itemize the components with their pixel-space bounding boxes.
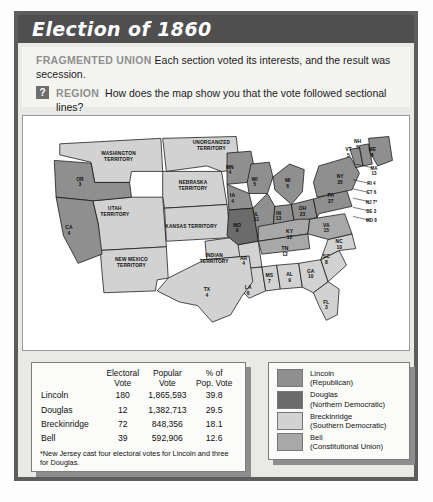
table-row: Breckinridge 72 848,356 18.1: [40, 417, 237, 431]
cell-popular: 1,865,593: [143, 388, 191, 402]
cell-percent: 39.8: [191, 388, 237, 402]
map-label-washington-territory: WASHINGTONTERRITORY: [101, 151, 136, 162]
map-callout-de: DE 3: [366, 209, 377, 214]
map-label-tn: TN12: [282, 246, 289, 257]
cell-candidate: Breckinridge: [40, 417, 102, 431]
map-legend: Lincoln(Republican) Douglas(Northern Dem…: [268, 362, 410, 460]
caption-main: FRAGMENTED UNION Each section voted its …: [36, 53, 400, 81]
page-title: Election of 1860: [18, 18, 212, 40]
legend-label: Lincoln(Republican): [310, 369, 353, 387]
th-name: [40, 369, 102, 388]
cell-percent: 18.1: [191, 417, 237, 431]
th-percent: % ofPop. Vote: [191, 369, 237, 388]
cell-popular: 592,906: [143, 431, 191, 445]
cell-candidate: Douglas: [40, 402, 102, 416]
results-table-box: ElectoralVote PopularVote % ofPop. Vote …: [31, 362, 246, 472]
title-bar: Election of 1860: [18, 15, 414, 43]
map-label-unorganized-territory: UNORGANIZEDTERRITORY: [193, 140, 231, 151]
map-label-in: IN13: [276, 211, 282, 222]
cell-candidate: Bell: [40, 431, 102, 445]
map-callout-md: MD 8: [366, 218, 377, 223]
map-label-kansas-territory: KANSAS TERRITORY: [165, 224, 217, 229]
map-label-il: IL11: [254, 212, 259, 223]
th-electoral: ElectoralVote: [102, 369, 143, 388]
legend-item-lincoln: Lincoln(Republican): [277, 369, 403, 387]
table-footnote: *New Jersey cast four electoral votes fo…: [40, 449, 237, 468]
map-region-utah-territory: [93, 197, 167, 250]
cell-electoral: 12: [102, 402, 143, 416]
map-label-new-mexico-territory: NEW MEXICOTERRITORY: [115, 257, 148, 268]
caption-question-row: ? REGION How does the map show you that …: [36, 86, 400, 114]
legend-swatch: [277, 391, 303, 409]
map-label-nebraska-territory: NEBRASKATERRITORY: [179, 180, 209, 191]
cell-electoral: 39: [102, 431, 143, 445]
election-map: WASHINGTONTERRITORYUNORGANIZEDTERRITORYN…: [22, 115, 410, 351]
legend-swatch: [277, 412, 303, 430]
election-1860-infographic: Election of 1860 FRAGMENTED UNION Each s…: [0, 0, 433, 502]
cell-popular: 848,356: [143, 417, 191, 431]
th-popular: PopularVote: [143, 369, 191, 388]
caption-panel: FRAGMENTED UNION Each section voted its …: [22, 47, 410, 107]
caption-question: How does the map show you that the vote …: [56, 87, 386, 113]
map-label-va: VA15: [323, 223, 330, 234]
cell-percent: 29.5: [191, 402, 237, 416]
table-row: Douglas 12 1,382,713 29.5: [40, 402, 237, 416]
map-callout-ct: CT 6: [366, 190, 376, 195]
legend-swatch: [277, 433, 303, 451]
caption-question-line: REGION How does the map show you that th…: [56, 86, 400, 114]
caption-lead: FRAGMENTED UNION: [36, 54, 152, 66]
map-label-pa: PA27: [328, 193, 335, 204]
table-row: Bell 39 592,906 12.6: [40, 431, 237, 445]
cell-popular: 1,382,713: [143, 402, 191, 416]
legend-label: Breckinridge(Southern Democratic): [310, 412, 386, 430]
legend-item-douglas: Douglas(Northern Democratic): [277, 390, 403, 408]
table-header-row: ElectoralVote PopularVote % ofPop. Vote: [40, 369, 237, 388]
legend-item-breckinridge: Breckinridge(Southern Democratic): [277, 412, 403, 430]
cell-candidate: Lincoln: [40, 388, 102, 402]
table-body: Lincoln 180 1,865,593 39.8 Douglas 12 1,…: [40, 388, 237, 446]
legend-label: Douglas(Northern Democratic): [310, 390, 385, 408]
map-callout-nj: NJ 7*: [366, 200, 378, 205]
cell-electoral: 72: [102, 417, 143, 431]
legend-item-bell: Bell(Constitutional Union): [277, 433, 403, 451]
region-lead: REGION: [56, 87, 99, 99]
legend-label: Bell(Constitutional Union): [310, 433, 383, 451]
legend-swatch: [277, 369, 303, 387]
map-region-kansas-territory: [165, 205, 231, 242]
map-svg: WASHINGTONTERRITORYUNORGANIZEDTERRITORYN…: [23, 116, 409, 350]
cell-percent: 12.6: [191, 431, 237, 445]
question-mark-icon: ?: [36, 86, 49, 99]
table-row: Lincoln 180 1,865,593 39.8: [40, 388, 237, 402]
map-callout-ri: RI 4: [367, 181, 376, 186]
cell-electoral: 180: [102, 388, 143, 402]
results-table: ElectoralVote PopularVote % ofPop. Vote …: [40, 369, 237, 446]
